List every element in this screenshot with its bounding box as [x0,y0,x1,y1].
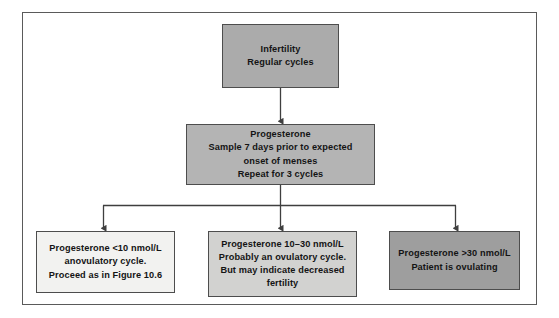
node-progesterone-mid: Progesterone 10–30 nmol/L Probably an ov… [208,231,357,297]
node-progesterone-low: Progesterone <10 nmol/L anovulatory cycl… [36,231,175,293]
node-high-label: Progesterone >30 nmol/L Patient is ovula… [395,247,514,273]
node-low-label: Progesterone <10 nmol/L anovulatory cycl… [42,242,169,281]
node-test-label: Progesterone Sample 7 days prior to expe… [192,128,369,180]
flowchart-figure: Infertility Regular cycles Progesterone … [0,0,559,318]
node-infertility-regular-cycles: Infertility Regular cycles [222,24,339,88]
node-progesterone-high: Progesterone >30 nmol/L Patient is ovula… [389,231,520,290]
node-start-label: Infertility Regular cycles [228,43,333,69]
node-mid-label: Progesterone 10–30 nmol/L Probably an ov… [214,238,351,290]
node-progesterone-test: Progesterone Sample 7 days prior to expe… [186,124,375,185]
